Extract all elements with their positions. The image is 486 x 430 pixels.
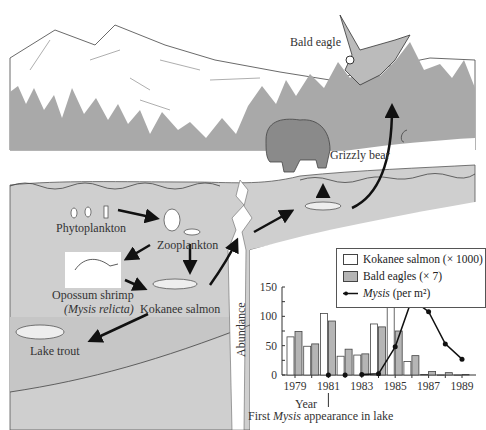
mysis-point [393, 344, 398, 349]
bar [328, 321, 335, 375]
bar [295, 332, 302, 375]
x-tick-label: 1983 [350, 380, 373, 392]
bar [445, 373, 452, 375]
x-tick-label: 1987 [417, 380, 440, 392]
mysis-point [376, 371, 381, 376]
bar [429, 371, 436, 375]
y-tick-label: 0 [271, 369, 277, 381]
bar [362, 354, 369, 375]
bar [320, 313, 327, 375]
y-tick-label: 100 [260, 310, 278, 322]
y-axis-label: Abundance [234, 302, 249, 357]
bar [421, 374, 428, 375]
x-tick-label: 1979 [284, 380, 307, 392]
bar [312, 344, 319, 375]
bar [437, 375, 444, 376]
x-tick-label: 1989 [451, 380, 474, 392]
bar [387, 306, 394, 375]
mysis-point [359, 372, 364, 377]
mysis-annotation: First Mysis appearance in lake [248, 409, 393, 424]
chart-legend: Kokanee salmon (× 1000) Bald eagles (× 7… [336, 248, 486, 308]
x-tick-label: 1981 [317, 380, 340, 392]
bar [462, 374, 469, 375]
bar [337, 356, 344, 375]
mysis-point [326, 373, 331, 378]
abundance-chart: 050100150197919811983198519871989 [0, 0, 486, 430]
bar [287, 337, 294, 375]
kokanee-swatch [343, 254, 358, 265]
bar [454, 375, 461, 376]
bar [371, 324, 378, 375]
legend-eagles: Bald eagles (× 7) [343, 270, 442, 282]
bar [304, 346, 311, 375]
bar [404, 362, 411, 375]
y-tick-label: 150 [260, 281, 278, 293]
mysis-line-swatch [343, 289, 358, 298]
mysis-point [343, 373, 348, 378]
legend-mysis: Mysis (per m²) [343, 287, 430, 299]
bar [412, 356, 419, 375]
eagles-swatch [343, 271, 358, 282]
mysis-point [460, 357, 465, 362]
y-tick-label: 50 [266, 340, 278, 352]
bar [354, 355, 361, 375]
mysis-point [443, 341, 448, 346]
x-tick-label: 1985 [384, 380, 407, 392]
bar [345, 349, 352, 375]
mysis-point [426, 309, 431, 314]
legend-kokanee: Kokanee salmon (× 1000) [343, 253, 483, 265]
